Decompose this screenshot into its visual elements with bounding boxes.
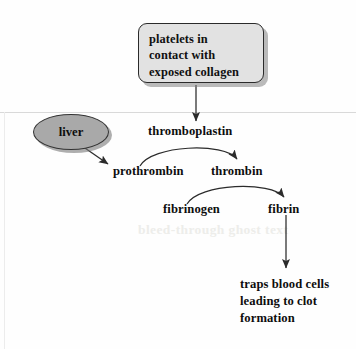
edge-liver-to-prothrombin — [82, 146, 108, 164]
outcome-line-1: traps blood cells — [240, 276, 329, 293]
node-fibrinogen: fibrinogen — [163, 202, 220, 217]
node-thrombin: thrombin — [211, 164, 263, 179]
liver-label: liver — [59, 125, 83, 140]
node-fibrin: fibrin — [268, 202, 299, 217]
trigger-box: platelets in contact with exposed collag… — [138, 23, 264, 83]
trigger-box-line-3: exposed collagen — [149, 64, 263, 80]
trigger-box-line-1: platelets in — [149, 31, 263, 47]
outcome-text: traps blood cells leading to clot format… — [240, 276, 329, 327]
diagram-canvas: bleed-through ghost text platelets in co… — [0, 0, 356, 349]
trigger-box-line-2: contact with — [149, 47, 263, 63]
node-prothrombin: prothrombin — [113, 164, 184, 179]
liver-ellipse: liver — [33, 114, 109, 150]
outcome-line-3: formation — [240, 310, 329, 327]
outcome-line-2: leading to clot — [240, 293, 329, 310]
node-thromboplastin: thromboplastin — [148, 124, 232, 139]
